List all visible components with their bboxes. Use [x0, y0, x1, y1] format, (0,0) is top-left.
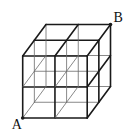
label-a: A [12, 117, 23, 132]
cube-lattice-diagram: AB [0, 0, 127, 137]
point-b-marker [109, 23, 113, 27]
label-b: B [114, 10, 123, 25]
